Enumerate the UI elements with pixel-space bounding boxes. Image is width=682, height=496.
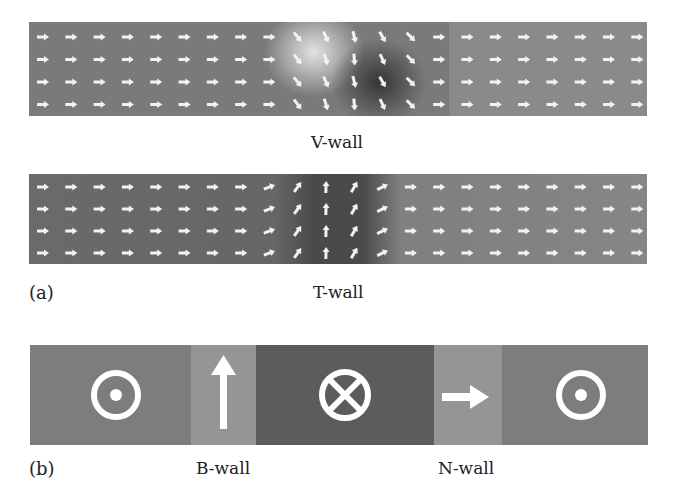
panel-b-label: (b) [29, 458, 55, 479]
n-wall-segment [434, 345, 502, 445]
dot-circle-icon [502, 345, 648, 445]
t-wall-vector-field [29, 174, 647, 264]
v-wall-caption: V-wall [311, 132, 363, 152]
t-wall-caption: T-wall [313, 282, 363, 302]
n-wall-caption: N-wall [438, 458, 494, 478]
panel-b-wall-schematic [30, 345, 648, 445]
b-wall-caption: B-wall [196, 458, 250, 478]
v-wall-panel [29, 22, 647, 116]
panel-a-label: (a) [29, 282, 54, 303]
t-wall-panel [29, 174, 647, 264]
arrow-up-icon [191, 345, 256, 445]
domain-out-2-segment [502, 345, 648, 445]
dot-circle-icon [30, 345, 191, 445]
v-wall-vector-field [29, 22, 647, 116]
b-wall-segment [191, 345, 256, 445]
cross-circle-icon [256, 345, 434, 445]
domain-in-segment [256, 345, 434, 445]
domain-out-segment [30, 345, 191, 445]
arrow-right-icon [434, 345, 502, 445]
